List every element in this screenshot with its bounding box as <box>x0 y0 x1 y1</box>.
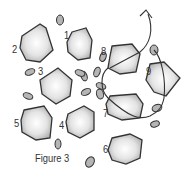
cell-label-4: 4 <box>59 120 64 131</box>
figure-caption: Figure 3 <box>35 152 69 164</box>
cell-label-1: 1 <box>64 30 69 41</box>
cell-2 <box>20 24 53 62</box>
cell-label-9: 9 <box>146 66 151 77</box>
cell-label-7: 7 <box>103 108 108 119</box>
cell-1 <box>67 28 92 60</box>
cell-6 <box>108 134 142 164</box>
cell-5 <box>21 106 52 140</box>
cell-label-2: 2 <box>12 44 17 55</box>
cell-label-6: 6 <box>103 144 108 155</box>
cell-7 <box>106 94 143 120</box>
cell-label-3: 3 <box>38 66 43 77</box>
figure-diagram <box>0 0 190 183</box>
cell-label-5: 5 <box>14 118 19 129</box>
cell-4 <box>66 106 94 138</box>
cell-8 <box>108 44 140 74</box>
cell-3 <box>40 68 72 104</box>
cell-label-8: 8 <box>101 46 106 57</box>
